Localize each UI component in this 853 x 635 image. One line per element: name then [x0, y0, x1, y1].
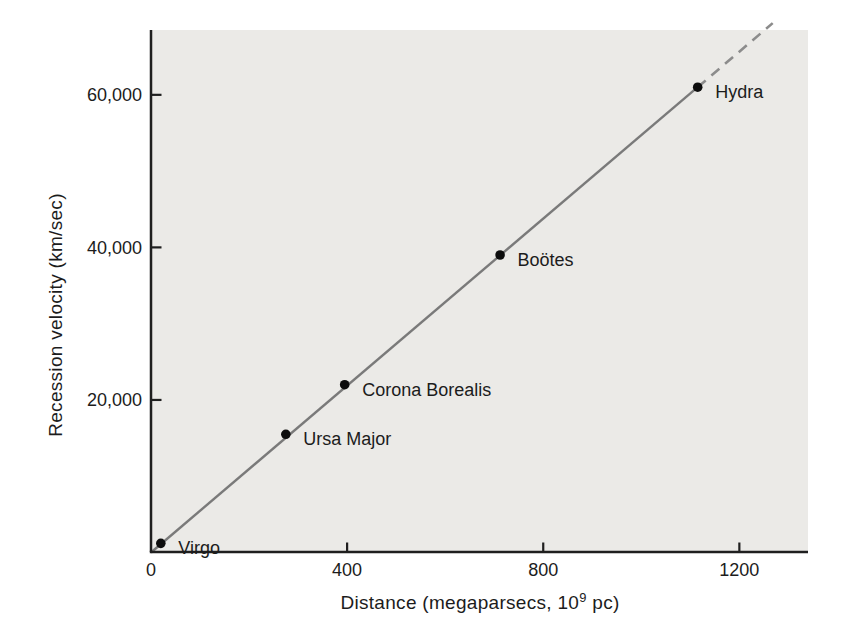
x-tick-label-0: 0: [146, 560, 156, 580]
x-tick-label-1200: 1200: [719, 560, 759, 580]
plot-area: [151, 30, 808, 552]
data-point-ursa-major: [281, 429, 291, 439]
x-tick-label-400: 400: [332, 560, 362, 580]
y-tick-label-60-000: 60,000: [87, 85, 142, 105]
hubble-diagram-figure: 20,00040,00060,00004008001200VirgoUrsa M…: [0, 0, 853, 635]
y-tick-label-40-000: 40,000: [87, 238, 142, 258]
x-axis-title: Distance (megaparsecs, 109 pc): [340, 592, 619, 614]
point-label-hydra: Hydra: [715, 82, 764, 102]
data-point-virgo: [156, 539, 166, 549]
data-point-hydra: [693, 82, 703, 92]
point-label-ursa-major: Ursa Major: [303, 429, 391, 449]
y-axis-title: Recession velocity (km/sec): [45, 193, 67, 437]
point-label-virgo: Virgo: [178, 538, 220, 558]
y-tick-label-20-000: 20,000: [87, 390, 142, 410]
x-axis-title-suffix: pc): [587, 592, 620, 613]
x-tick-label-800: 800: [528, 560, 558, 580]
x-axis-title-prefix: Distance (megaparsecs, 10: [340, 592, 579, 613]
data-point-corona-borealis: [340, 380, 350, 390]
data-point-bo-tes: [495, 250, 505, 260]
point-label-bo-tes: Boötes: [518, 250, 574, 270]
chart-canvas: 20,00040,00060,00004008001200VirgoUrsa M…: [0, 0, 853, 635]
point-label-corona-borealis: Corona Borealis: [362, 380, 491, 400]
